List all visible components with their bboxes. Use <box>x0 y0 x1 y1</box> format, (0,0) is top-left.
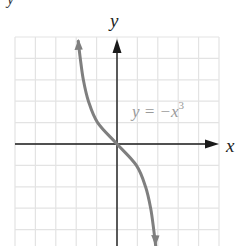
cropped-fragment-text: y <box>5 0 15 8</box>
y-axis-arrow-icon <box>113 39 122 53</box>
x-axis-arrow-icon <box>205 140 219 149</box>
cubic-graph-figure: y y x y = −x3 <box>0 0 243 246</box>
equation-exponent: 3 <box>179 99 185 111</box>
equation-base: y = −x <box>130 102 179 121</box>
y-axis-label: y <box>108 10 119 31</box>
equation-label: y = −x3 <box>130 99 185 121</box>
graph-canvas: y y x y = −x3 <box>0 0 243 246</box>
x-axis-label: x <box>225 135 235 156</box>
